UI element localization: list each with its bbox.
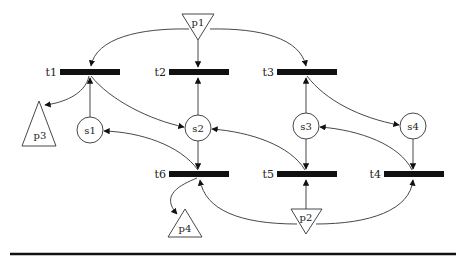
transition-bar [277, 171, 337, 177]
transition-t1: t1 [46, 66, 120, 79]
transition-label: t2 [155, 66, 166, 79]
arc-t6-s1 [104, 131, 198, 170]
transition-t3: t3 [263, 66, 337, 79]
state-s1: s1 [77, 117, 103, 143]
arc-p2-t6 [200, 180, 297, 224]
petri-net-diagram: t1 t2 t3 t4 t5 t6 s1 s2 s3 s4 p1 [0, 0, 466, 257]
state-s2: s2 [185, 115, 211, 141]
port-label: p3 [34, 130, 47, 141]
transition-t5: t5 [263, 168, 337, 181]
arc-p1-t3 [210, 29, 306, 66]
state-s3: s3 [293, 113, 319, 139]
port-p3: p3 [22, 101, 56, 146]
port-label: p4 [179, 223, 192, 234]
state-s4: s4 [400, 113, 426, 139]
port-p1: p1 [182, 14, 214, 40]
transition-label: t6 [155, 168, 166, 181]
transition-bar [384, 171, 444, 177]
transition-label: t1 [46, 66, 57, 79]
arc-t6-p4 [171, 178, 197, 214]
arc-t1-p3 [45, 76, 89, 105]
transition-t6: t6 [155, 168, 229, 181]
transition-t4: t4 [370, 168, 444, 181]
arc-p1-t1 [91, 29, 189, 66]
port-p2: p2 [291, 209, 322, 234]
state-label: s3 [300, 121, 312, 132]
state-label: s2 [192, 123, 204, 134]
transition-label: t3 [263, 66, 274, 79]
transition-label: t4 [370, 168, 381, 181]
transition-bar [60, 69, 120, 75]
state-label: s4 [407, 121, 419, 132]
transition-label: t5 [263, 168, 274, 181]
arc-t3-s4 [307, 76, 399, 125]
arc-t1-s2 [91, 76, 184, 127]
arc-t5-s2 [212, 129, 305, 170]
transition-bar [169, 69, 229, 75]
state-label: s1 [84, 125, 96, 136]
arc-t4-s3 [320, 127, 412, 170]
port-p4: p4 [168, 209, 202, 237]
transition-bar [277, 69, 337, 75]
port-label: p1 [192, 17, 205, 28]
arc-p2-t4 [316, 180, 413, 224]
transition-t2: t2 [155, 66, 229, 79]
transition-bar [169, 171, 229, 177]
port-label: p2 [300, 212, 313, 223]
